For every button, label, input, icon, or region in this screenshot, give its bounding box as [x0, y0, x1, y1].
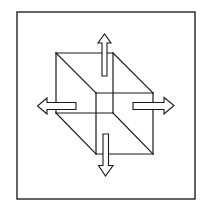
background: [0, 0, 207, 210]
cube-diagram-svg: [0, 0, 207, 210]
diagram-canvas: Wireframe cube with four outward arrows: [0, 0, 207, 210]
